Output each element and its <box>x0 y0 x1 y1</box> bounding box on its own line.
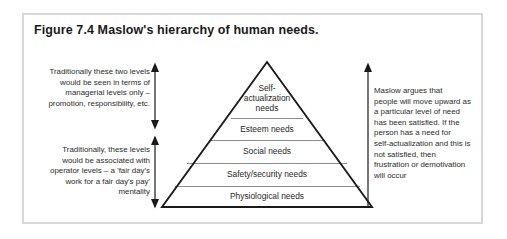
tier-label-physiological-needs: Physiological needs <box>197 192 337 202</box>
tier-label-esteem-needs: Esteem needs <box>207 125 327 135</box>
tier-label-self-actualization: Self- actualization needs <box>227 84 307 113</box>
tier-label-line: needs <box>227 104 307 114</box>
tier-label-social-needs: Social needs <box>207 147 327 157</box>
tier-label-safety-security-needs: Safety/security needs <box>197 170 337 180</box>
figure-container: Figure 7.4 Maslow's hierarchy of human n… <box>0 0 507 239</box>
pyramid-tier-labels: Self- actualization needs Esteem needs S… <box>0 0 507 239</box>
